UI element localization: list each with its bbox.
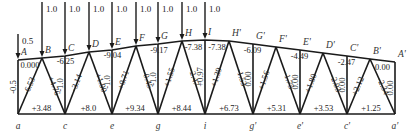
web-force-label: -6.53 [21,75,37,95]
arrow-down-icon [203,33,208,39]
web-force-label: +1.55 [161,66,177,88]
web-force-label: +1.39 [208,66,224,88]
arrow-down-icon [180,34,185,40]
top-node-label: E' [302,37,312,47]
load-value: 1.0 [186,4,198,14]
top-node-label: B [45,45,51,55]
bottom-node-label: a [16,121,21,131]
bottom-chord-force-label: +8.44 [172,103,192,113]
top-chord-force-label: -6.25 [57,56,75,66]
arrow-down-icon [134,39,139,45]
top-chord-force-label: -6.09 [244,45,262,55]
top-node-label: F' [278,34,288,44]
top-chord-force-label: -7.38 [208,42,226,52]
load-value: 0.5 [22,36,34,46]
load-value: 1.0 [162,4,174,14]
bottom-chord-force-label: +1.25 [361,103,381,113]
arrow-down-icon [40,51,45,57]
top-node-label: G' [256,31,266,41]
top-chord-force-label: -7.38 [185,42,203,52]
web-force-label: -0.5 [8,80,18,93]
load-value: 1.0 [46,4,58,14]
web-force-label: -1.0 [148,72,158,85]
load-value: 1.0 [69,4,81,14]
bottom-node-label: c [63,121,68,131]
web-force-label: +2.12 [349,75,366,97]
bottom-chord-force-label: +3.48 [32,103,52,113]
web-force-label: -3.14 [68,72,84,93]
top-node-label: G [161,31,168,41]
web-force-label: +0.71 [115,69,131,91]
top-chord-force-label: 0.000 [20,60,39,70]
top-node-label: E [114,37,121,47]
bottom-chord-force-label: +8.0 [81,103,96,113]
top-node-label: B' [373,46,382,56]
top-node-label: H' [231,28,242,38]
arrow-down-icon [156,37,161,43]
bottom-node-label: e [110,121,114,131]
top-chord-force-label: -9.17 [150,45,168,55]
top-node-label: D' [325,40,336,50]
top-node-label: D [91,39,99,49]
top-chord-force-label: 0.00 [375,62,390,72]
load-value: 1.0 [209,4,221,14]
bottom-node-label: i [204,121,207,131]
web-force-label: +1.56 [256,69,272,91]
top-node-label: H [184,28,193,38]
bottom-node-label: a' [392,121,400,131]
arrow-down-icon [16,53,21,59]
web-force-label: 0.00 [243,72,253,87]
web-force-label: -1.0 [102,75,112,88]
arrow-down-icon [87,45,92,51]
bottom-node-label: c' [344,121,351,131]
bottom-chord-force-label: +5.31 [267,103,287,113]
bottom-node-label: g [156,121,161,131]
web-force-label: -1.0 [55,78,65,91]
web-force-label: 0.00 [337,78,347,93]
bottom-node-label: g' [250,121,258,131]
bottom-chord-force-label: +6.73 [219,103,239,113]
top-node-label: C' [350,43,359,53]
load-value: 1.0 [116,4,128,14]
bottom-node-label: e' [297,121,304,131]
top-node-label: C [68,43,75,53]
arrow-down-icon [63,49,68,55]
top-node-label: A' [397,49,407,59]
bottom-chord-force-label: +9.34 [125,103,145,113]
top-node-label: F [138,33,145,43]
bottom-chord-force-label: +3.53 [314,103,334,113]
load-value: 1.0 [93,4,105,14]
truss-diagram: 0.51.01.01.01.01.01.01.01.0 ABCDEFGHIH'G… [0,0,411,139]
load-value: 1.0 [140,4,152,14]
top-node-label: I [207,27,212,37]
web-force-label: +0.97 [195,67,205,87]
web-force-label: 0.00 [290,75,300,90]
web-force-label: 0.00 [385,81,395,96]
arrow-down-icon [110,43,115,49]
top-chord-force-label: -2.47 [338,57,356,67]
top-chord-force-label: -9.04 [104,50,122,60]
web-force-label: +1.80 [302,72,318,94]
top-node-label: A [20,47,27,57]
top-chord-force-label: -4.49 [291,51,309,61]
